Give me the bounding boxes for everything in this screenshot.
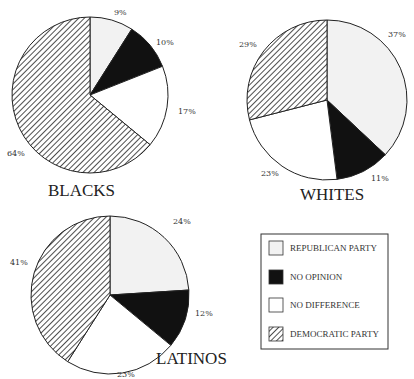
label-blacks-republican: 9%	[114, 8, 127, 17]
label-latinos-no-opinion: 12%	[195, 309, 213, 318]
label-blacks-democratic: 64%	[7, 149, 25, 158]
pie-chart-whites	[247, 20, 407, 180]
label-whites-democratic: 29%	[239, 40, 257, 49]
legend-label-no-difference: NO DIFFERENCE	[290, 300, 360, 310]
label-blacks-no-difference: 17%	[178, 107, 196, 116]
pie-slice-republican	[110, 216, 189, 295]
legend-label-no-opinion: NO OPINION	[290, 272, 343, 282]
pie-chart-blacks	[12, 17, 168, 173]
legend-swatch-republican	[269, 241, 283, 255]
title-whites: WHITES	[300, 185, 364, 204]
label-blacks-no-opinion: 10%	[156, 38, 174, 47]
label-whites-no-difference: 23%	[261, 169, 279, 178]
title-latinos: LATINOS	[156, 349, 227, 368]
pie-charts-figure: 9% 10% 17% 64% BLACKS 37% 11% 23% 29% WH…	[0, 0, 414, 379]
label-latinos-democratic: 41%	[10, 258, 28, 267]
label-latinos-republican: 24%	[173, 217, 191, 226]
legend-swatch-democratic	[269, 327, 283, 341]
legend-label-republican: REPUBLICAN PARTY	[290, 243, 377, 253]
legend: REPUBLICAN PARTY NO OPINION NO DIFFERENC…	[261, 234, 388, 349]
legend-swatch-no-difference	[269, 298, 283, 312]
label-latinos-no-difference: 23%	[117, 370, 135, 379]
label-whites-no-opinion: 11%	[371, 174, 389, 183]
label-whites-republican: 37%	[388, 30, 406, 39]
legend-label-democratic: DEMOCRATIC PARTY	[290, 329, 379, 339]
title-blacks: BLACKS	[48, 181, 115, 200]
legend-swatch-no-opinion	[269, 270, 283, 284]
